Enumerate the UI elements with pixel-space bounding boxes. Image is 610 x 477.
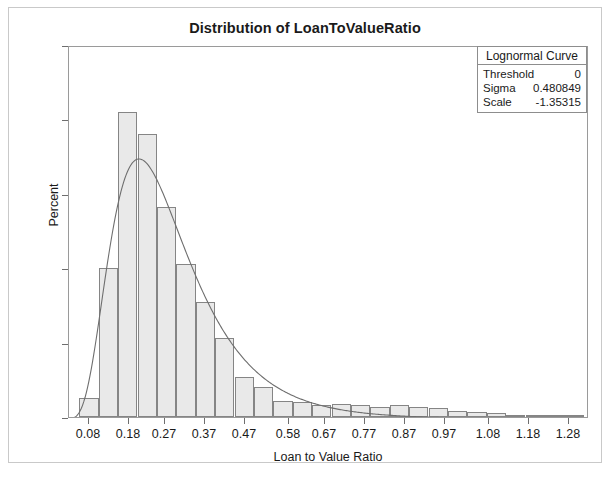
histogram-bar — [312, 405, 331, 417]
x-tick-label: 1.28 — [543, 427, 593, 441]
histogram-bar — [235, 377, 254, 417]
histogram-bar — [273, 401, 292, 417]
histogram-bar — [157, 207, 176, 417]
histogram-bar — [332, 404, 351, 417]
legend-key: Sigma — [483, 81, 516, 95]
histogram-bar — [176, 264, 195, 417]
x-tick-mark — [128, 418, 129, 424]
histogram-bar — [526, 415, 545, 417]
x-tick-mark — [364, 418, 365, 424]
x-axis-label: Loan to Value Ratio — [68, 450, 588, 464]
histogram-bar — [487, 413, 506, 417]
legend-value: -1.35315 — [536, 95, 581, 109]
y-tick-mark — [62, 418, 68, 419]
chart-screenshot: Distribution of LoanToValueRatio Percent… — [0, 0, 610, 477]
histogram-bar — [409, 407, 428, 417]
legend-value: 0.480849 — [533, 81, 581, 95]
legend-row: Sigma0.480849 — [483, 81, 581, 95]
legend-row: Threshold0 — [483, 67, 581, 81]
x-tick-mark — [404, 418, 405, 424]
histogram-bar — [545, 415, 564, 417]
histogram-bar — [506, 415, 525, 417]
legend-key: Scale — [483, 95, 512, 109]
x-tick-mark — [444, 418, 445, 424]
x-tick-mark — [324, 418, 325, 424]
histogram-bar — [79, 398, 98, 417]
histogram-bar — [351, 405, 370, 417]
x-tick-label: 0.47 — [219, 427, 269, 441]
y-axis-label: Percent — [47, 145, 61, 265]
x-tick-mark — [164, 418, 165, 424]
histogram-bar — [215, 338, 234, 417]
legend-rows: Threshold0Sigma0.480849Scale-1.35315 — [483, 67, 581, 109]
histogram-bar — [390, 405, 409, 417]
histogram-bar — [448, 411, 467, 417]
x-tick-mark — [288, 418, 289, 424]
histogram-bar — [138, 134, 157, 417]
x-tick-mark — [88, 418, 89, 424]
legend-title: Lognormal Curve — [478, 49, 586, 65]
histogram-bar — [293, 402, 312, 417]
x-tick-mark — [568, 418, 569, 424]
histogram-bar — [196, 302, 215, 417]
y-axis-label-text: Percent — [47, 183, 61, 226]
legend-value: 0 — [575, 67, 581, 81]
histogram-bar — [118, 112, 137, 417]
histogram-bar — [429, 408, 448, 417]
legend-key: Threshold — [483, 67, 534, 81]
x-tick-mark — [488, 418, 489, 424]
x-tick-mark — [244, 418, 245, 424]
histogram-bar — [564, 415, 583, 417]
histogram-bar — [467, 412, 486, 417]
legend-row: Scale-1.35315 — [483, 95, 581, 109]
x-tick-label: 0.97 — [419, 427, 469, 441]
histogram-bar — [254, 387, 273, 417]
histogram-bar — [370, 407, 389, 417]
histogram-bar — [99, 268, 118, 417]
x-tick-mark — [528, 418, 529, 424]
x-tick-mark — [204, 418, 205, 424]
chart-title: Distribution of LoanToValueRatio — [0, 20, 610, 36]
legend-box: Lognormal Curve Threshold0Sigma0.480849S… — [477, 46, 587, 113]
